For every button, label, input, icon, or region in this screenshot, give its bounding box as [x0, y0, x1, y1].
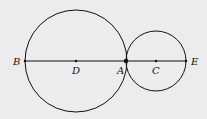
point-a: [124, 59, 128, 63]
label-b: B: [12, 56, 20, 67]
label-e: E: [190, 56, 199, 67]
label-c: C: [152, 65, 160, 76]
label-d: D: [71, 65, 80, 76]
label-a: A: [116, 65, 124, 76]
point-b: [24, 60, 26, 62]
geometry-diagram: B D A C E: [0, 0, 207, 119]
point-d: [75, 60, 77, 62]
point-c: [155, 60, 157, 62]
point-e: [185, 60, 187, 62]
